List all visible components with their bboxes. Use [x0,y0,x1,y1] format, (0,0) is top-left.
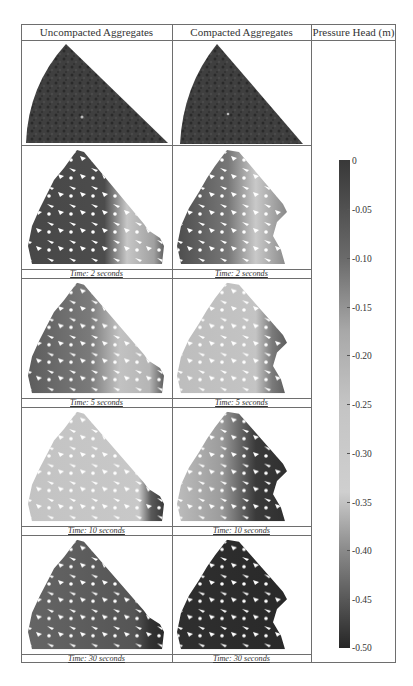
caption-uncompacted-t10: Time: 10 seconds [21,526,172,535]
simulation-compacted-t30 [173,536,311,654]
colorbar-tick-mark [347,599,350,600]
simulation-uncompacted-t2 [22,146,172,269]
simulation-uncompacted-t5 [22,279,172,398]
colorbar-tick-mark [347,355,350,356]
simulation-uncompacted-t10 [22,408,172,526]
ct-scan-uncompacted [22,41,172,145]
colorbar-tick-mark [347,502,350,503]
colorbar-tick-mark [347,209,350,210]
simulation-compacted-t2 [173,146,311,269]
simulation-compacted-t5 [173,279,311,398]
column-divider [311,24,312,663]
colorbar-tick-mark [347,453,350,454]
ct-scan-compacted [173,41,311,145]
colorbar-tick-mark [347,258,350,259]
header-compacted: Compacted Aggregates [172,24,311,40]
caption-uncompacted-t30: Time: 30 seconds [21,654,172,663]
colorbar-tick-label: -0.25 [352,400,372,410]
colorbar-tick-mark [347,307,350,308]
colorbar-tick-label: -0.40 [352,546,372,556]
colorbar-tick-label: -0.15 [352,303,372,313]
header-uncompacted: Uncompacted Aggregates [21,24,172,40]
colorbar-tick-label: -0.20 [352,351,372,361]
caption-compacted-t2: Time: 2 seconds [172,269,311,278]
caption-uncompacted-t2: Time: 2 seconds [21,269,172,278]
caption-compacted-t5: Time: 5 seconds [172,398,311,407]
colorbar-tick-mark [347,550,350,551]
colorbar-tick-label: -0.45 [352,595,372,605]
colorbar-tick-label: -0.10 [352,254,372,264]
caption-compacted-t30: Time: 30 seconds [172,654,311,663]
colorbar-tick-label: -0.50 [352,643,372,653]
colorbar-tick-mark [347,404,350,405]
simulation-uncompacted-t30 [22,536,172,654]
header-pressure-head: Pressure Head (m) [311,24,396,40]
caption-compacted-t10: Time: 10 seconds [172,526,311,535]
colorbar-tick-label: -0.30 [352,449,372,459]
simulation-compacted-t10 [173,408,311,526]
colorbar-tick-label: 0 [352,156,357,166]
colorbar-tick-label: -0.35 [352,498,372,508]
colorbar-tick-label: -0.05 [352,205,372,215]
caption-uncompacted-t5: Time: 5 seconds [21,398,172,407]
